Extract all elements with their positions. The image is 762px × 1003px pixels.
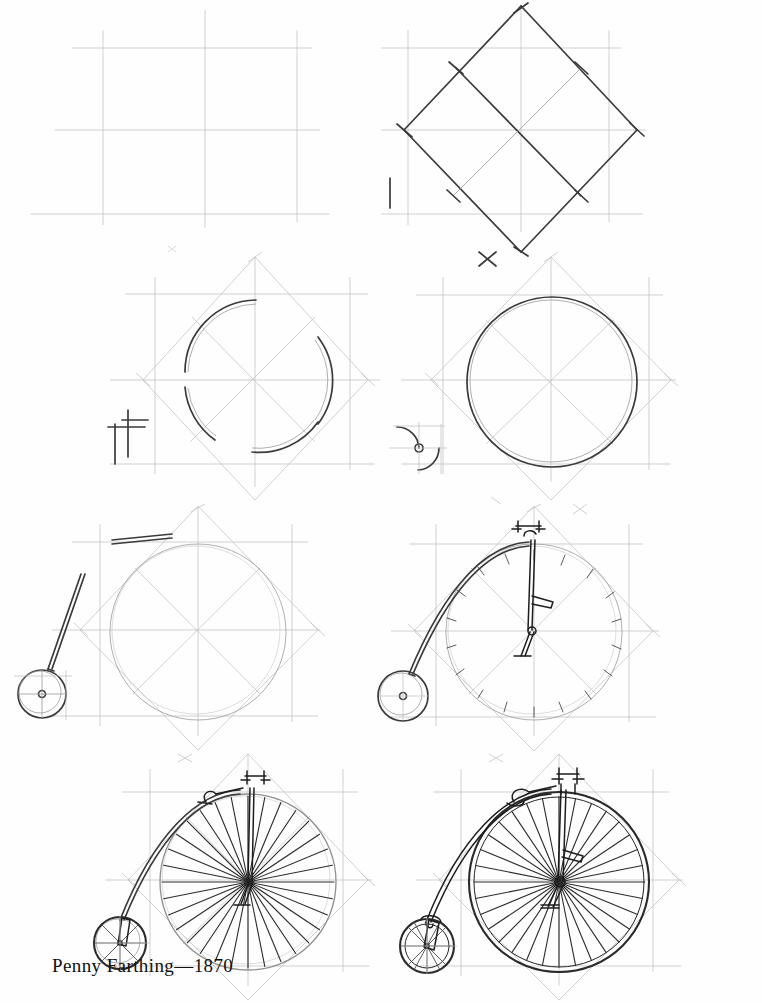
construction-square-lines <box>30 10 330 228</box>
wheel-arc-bottom-left <box>185 387 216 440</box>
frame-backbone-tube <box>409 542 529 676</box>
small-rear-wheel <box>14 670 72 720</box>
step-panel-6 <box>381 504 762 754</box>
step-8-drawing <box>381 754 762 1003</box>
step-panel-2 <box>381 0 762 252</box>
wheel-arc-bottom <box>252 420 318 452</box>
drawing-page: Penny Farthing—1870 <box>0 0 762 1003</box>
construction-diamond <box>136 252 375 500</box>
small-cross-construction-mark <box>108 410 148 464</box>
step-6-drawing <box>381 504 762 754</box>
steps-grid <box>0 0 762 1003</box>
frame-backbone-tube <box>48 534 172 671</box>
large-wheel-spokes <box>474 797 644 967</box>
small-wheel-construction <box>389 422 447 474</box>
step-4-drawing <box>381 252 762 504</box>
step-panel-3 <box>0 252 381 504</box>
handlebars <box>507 768 584 806</box>
step-3-drawing <box>0 252 381 504</box>
construction-diamond <box>425 252 678 500</box>
outside-x-marks <box>479 252 501 504</box>
frame-backbone-tube <box>426 789 551 928</box>
wheel-arc-top-left <box>185 300 256 372</box>
construction-diamond <box>74 504 325 750</box>
wheel-arc-right <box>315 337 333 424</box>
step-1-drawing <box>0 0 381 252</box>
diamond-diagonals <box>453 68 581 196</box>
small-rear-wheel <box>400 916 457 974</box>
diamond-corner-ticks <box>397 3 644 256</box>
construction-square <box>391 506 659 736</box>
step-panel-8 <box>381 754 762 1003</box>
step-panel-5 <box>0 504 381 754</box>
page-caption: Penny Farthing—1870 <box>52 955 233 977</box>
small-rear-wheel <box>378 671 429 721</box>
step-panel-4 <box>381 252 762 504</box>
underlying-construction-square <box>381 10 646 232</box>
frame-backbone-tube <box>120 790 240 920</box>
step-5-drawing <box>0 504 381 754</box>
step-2-drawing <box>381 0 762 252</box>
step-panel-1 <box>0 0 381 252</box>
